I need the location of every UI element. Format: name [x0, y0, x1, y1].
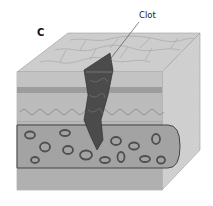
clot-label: Clot [139, 10, 156, 20]
panel-letter: C [37, 27, 44, 38]
tissue-block-illustration [0, 0, 213, 206]
